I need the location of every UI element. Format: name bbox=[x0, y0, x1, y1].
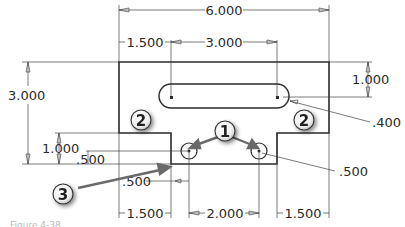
dim-left-offset: 1.500 bbox=[126, 35, 163, 50]
dim-hole-spacing: 2.000 bbox=[206, 206, 243, 221]
dim-hole-diameter: .500 bbox=[339, 164, 368, 179]
dim-slot-from-top: 1.000 bbox=[352, 72, 389, 87]
svg-text:2: 2 bbox=[136, 112, 146, 130]
technical-drawing: 6.000 1.500 3.000 3.000 1.000 .400 1.000… bbox=[0, 0, 405, 227]
callout-1: 1 bbox=[215, 121, 235, 141]
callout-2-left: 2 bbox=[131, 110, 151, 130]
dim-overall-width: 6.000 bbox=[205, 3, 242, 18]
dimension-lines bbox=[22, 5, 372, 218]
dim-overall-height: 3.000 bbox=[8, 88, 45, 103]
svg-text:1: 1 bbox=[220, 123, 230, 141]
dim-step-height: 1.000 bbox=[42, 141, 79, 156]
callout-3: 3 bbox=[53, 184, 73, 204]
dim-bottom-right: 1.500 bbox=[284, 206, 321, 221]
dim-hole-height: .500 bbox=[76, 152, 105, 167]
svg-text:3: 3 bbox=[58, 186, 68, 204]
dim-slot-length: 3.000 bbox=[205, 35, 242, 50]
figure-caption: Figure 4-38 bbox=[10, 220, 61, 227]
callout-arrows bbox=[78, 137, 258, 188]
dim-slot-radius: .400 bbox=[372, 115, 401, 130]
slot bbox=[159, 84, 289, 108]
callout-2-right: 2 bbox=[294, 110, 314, 130]
svg-text:2: 2 bbox=[299, 112, 309, 130]
dim-bottom-left: 1.500 bbox=[126, 206, 163, 221]
